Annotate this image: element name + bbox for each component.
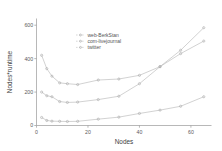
legend-label: com-livejournal xyxy=(88,38,122,44)
axis-lines xyxy=(37,19,212,126)
y-tick-label: 600 xyxy=(24,22,33,28)
y-tick-label: 0 xyxy=(30,122,33,128)
line-chart: 02004006000204060NodesNodes*runtimeweb-B… xyxy=(0,0,222,151)
series-twitter xyxy=(41,96,205,123)
series-web-berkstan xyxy=(41,27,205,86)
series-line xyxy=(42,97,204,122)
x-axis-title: Nodes xyxy=(115,138,133,145)
series-line xyxy=(42,28,204,85)
chart-container: 02004006000204060NodesNodes*runtimeweb-B… xyxy=(0,0,222,151)
y-axis-title: Nodes*runtime xyxy=(6,50,13,93)
legend: web-BerkStancom-livejournaltwitter xyxy=(76,32,121,50)
x-tick-label: 20 xyxy=(85,129,91,135)
x-tick-label: 0 xyxy=(35,129,38,135)
x-tick-label: 40 xyxy=(137,129,143,135)
x-tick-label: 60 xyxy=(188,129,194,135)
y-tick-label: 200 xyxy=(24,89,33,95)
legend-label: web-BerkStan xyxy=(88,32,120,38)
legend-label: twitter xyxy=(88,44,102,50)
y-tick-label: 400 xyxy=(24,56,33,62)
